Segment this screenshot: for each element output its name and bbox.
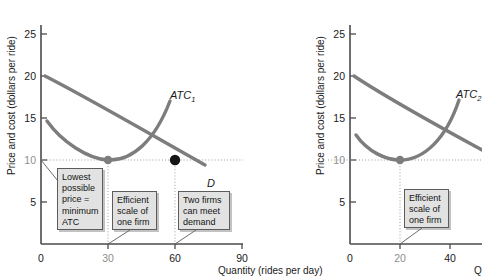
y-ticklabel-5-left: 5 [30, 196, 36, 208]
min-atc-marker-left [104, 156, 112, 164]
y-ticklabel-15-left: 15 [24, 112, 36, 124]
y-ticklabel-10-right: 10 [333, 154, 345, 166]
plot-right: 25 20 15 10 5 0 20 40 Price and cost (do… [300, 0, 482, 278]
atc1-label: ATC1 [169, 89, 195, 104]
leader-efficient-scale-left [108, 230, 130, 244]
panel-left: 25 20 15 10 5 0 30 60 90 Price and cost … [0, 0, 300, 278]
x-ticklabel-0-left: 0 [38, 252, 44, 264]
callout-lowest-price: Lowest possible price = minimum ATC [57, 168, 103, 230]
callout-two-firms: Two firms can meet demand [178, 191, 230, 230]
callout-two-firms-text: Two firms can meet demand [183, 195, 222, 227]
callout-efficient-scale-left-text: Efficient scale of one firm [117, 195, 150, 227]
callout-efficient-scale-left: Efficient scale of one firm [112, 191, 157, 230]
leader-two-firms [175, 230, 196, 244]
x-ticklabel-60-left: 60 [169, 252, 181, 264]
figure-root: 25 20 15 10 5 0 30 60 90 Price and cost … [0, 0, 482, 278]
y-ticklabel-20-right: 20 [333, 70, 345, 82]
y-ticklabel-10-left: 10 [24, 154, 36, 166]
callout-lowest-price-text: Lowest possible price = minimum ATC [62, 172, 99, 227]
y-ticklabel-5-right: 5 [339, 196, 345, 208]
y-ticklabel-20-left: 20 [24, 70, 36, 82]
y-axis-title-left: Price and cost (dollars per ride) [6, 36, 17, 175]
x-ticklabel-20-right: 20 [394, 252, 406, 264]
min-atc-marker-right [396, 156, 404, 164]
y-axis-title-right: Price and cost (dollars per ride) [315, 36, 326, 175]
x-axis-title-right: Q [474, 265, 482, 276]
demand-quantity-marker-left [170, 155, 180, 165]
x-ticklabel-40-right: 40 [444, 252, 456, 264]
x-ticklabel-30-left: 30 [102, 252, 114, 264]
demand-label-left: D [207, 177, 215, 189]
y-ticklabel-25-left: 25 [24, 28, 36, 40]
plot-left: 25 20 15 10 5 0 30 60 90 Price and cost … [0, 0, 300, 278]
callout-efficient-scale-right-text: Efficient scale of one firm [409, 193, 442, 225]
x-ticklabel-0-right: 0 [347, 252, 353, 264]
y-ticklabel-25-right: 25 [333, 28, 345, 40]
leader-efficient-scale-right [400, 228, 422, 244]
panel-right: 25 20 15 10 5 0 20 40 Price and cost (do… [300, 0, 482, 278]
y-ticklabel-15-right: 15 [333, 112, 345, 124]
x-ticklabel-90-left: 90 [236, 252, 248, 264]
callout-efficient-scale-right: Efficient scale of one firm [404, 189, 449, 228]
